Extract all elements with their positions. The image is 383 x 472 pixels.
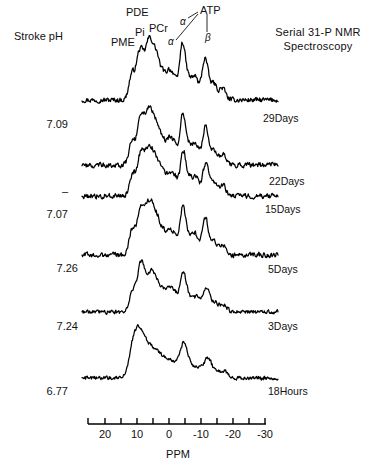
axis-tick-label: 20 — [90, 428, 120, 440]
axis-tick-label: 10 — [122, 428, 152, 440]
axis-title-ppm: PPM — [148, 448, 208, 460]
ppm-axis — [0, 0, 383, 472]
axis-tick-label: -10 — [186, 428, 216, 440]
axis-tick-label: 0 — [154, 428, 184, 440]
axis-tick-label: -20 — [218, 428, 248, 440]
nmr-spectra-figure: Stroke pH Serial 31-P NMR Spectroscopy P… — [0, 0, 383, 472]
axis-tick-label: -30 — [250, 428, 280, 440]
